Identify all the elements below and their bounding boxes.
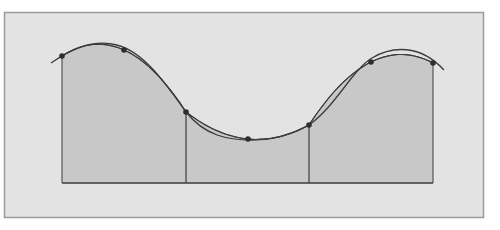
sample-point — [245, 136, 251, 142]
sample-point — [183, 109, 189, 115]
simpsons-rule-diagram — [0, 0, 500, 230]
sample-point — [368, 59, 374, 65]
sample-point — [59, 53, 65, 59]
sample-point — [121, 47, 127, 53]
sample-point — [306, 122, 312, 128]
sample-point — [430, 60, 436, 66]
